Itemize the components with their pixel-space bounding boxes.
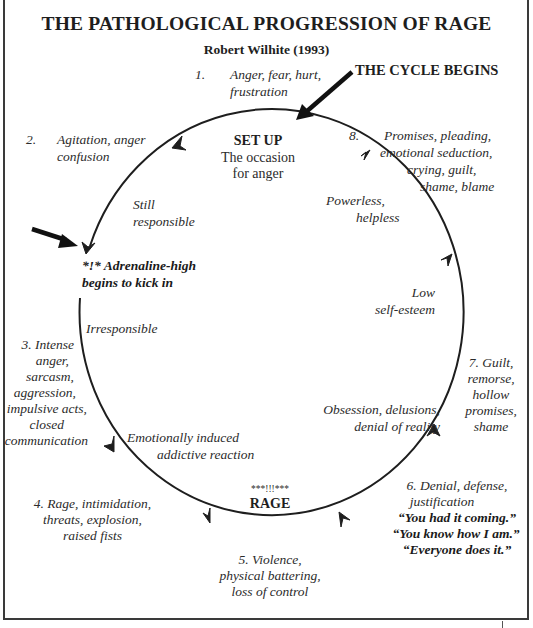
stage-8-number: 8. bbox=[349, 128, 359, 144]
irresponsible-label: Irresponsible bbox=[86, 321, 158, 337]
cycle-begins-label: THE CYCLE BEGINS bbox=[355, 62, 498, 79]
arrowhead-icon bbox=[104, 436, 114, 452]
low-self-esteem-line2: self-esteem bbox=[360, 302, 435, 318]
stage-6-quote2: “You know how I am.” bbox=[388, 526, 524, 542]
rage-stars: ***!!!*** bbox=[230, 484, 310, 495]
stage-3-line7: communication bbox=[4, 433, 88, 449]
stage-6-quote1: “You had it coming.” bbox=[392, 510, 522, 526]
diagram-subtitle: Robert Wilhite (1993) bbox=[0, 42, 533, 58]
emotionally-induced-line1: Emotionally induced bbox=[127, 430, 239, 446]
setup-title: SET UP bbox=[208, 133, 308, 150]
low-self-esteem-line1: Low bbox=[360, 285, 435, 301]
arrowhead-icon bbox=[441, 254, 452, 266]
obsession-line1: Obsession, delusions, bbox=[290, 402, 440, 418]
stage-6-line1: 6. Denial, defense, bbox=[392, 478, 522, 494]
stage-2-line2: confusion bbox=[57, 149, 110, 165]
arrowhead-icon bbox=[361, 150, 370, 160]
stage-2-number: 2. bbox=[26, 132, 36, 148]
adrenaline-label-line1: *!* Adrenaline-high bbox=[82, 258, 196, 274]
stage-5-line2: physical battering, bbox=[215, 568, 325, 584]
still-responsible-line1: Still bbox=[133, 197, 155, 213]
arrowhead-icon bbox=[82, 242, 95, 254]
stage-8-line4: shame, blame bbox=[420, 179, 494, 195]
stage-1-number: 1. bbox=[195, 67, 205, 83]
stage-3-line5: impulsive acts, bbox=[4, 401, 87, 417]
stage-7-line3: hollow bbox=[461, 387, 521, 403]
stage-3-line6: closed bbox=[4, 417, 64, 433]
setup-line1: The occasion bbox=[198, 150, 318, 167]
stage-4-line1: 4. Rage, intimidation, bbox=[30, 496, 155, 512]
adrenaline-label-line2: begins to kick in bbox=[82, 275, 173, 291]
stage-7-line2: remorse, bbox=[461, 371, 521, 387]
stage-8-line3: crying, guilt, bbox=[407, 162, 476, 178]
arrowhead-icon bbox=[203, 508, 210, 523]
powerless-line1: Powerless, bbox=[326, 193, 385, 209]
stage-5-line3: loss of control bbox=[215, 584, 325, 600]
stage-5-line1: 5. Violence, bbox=[215, 552, 325, 568]
diagram-title: THE PATHOLOGICAL PROGRESSION OF RAGE bbox=[0, 12, 533, 35]
obsession-line2: denial of reality bbox=[290, 419, 440, 435]
stage-1-line2: frustration bbox=[230, 84, 288, 100]
stage-3-line1: 3. Intense bbox=[4, 337, 74, 353]
setup-line2: for anger bbox=[198, 166, 318, 183]
stage-6-line2: justification bbox=[392, 494, 492, 510]
powerless-line2: helpless bbox=[356, 210, 400, 226]
still-responsible-line2: responsible bbox=[133, 214, 195, 230]
rage-title: RAGE bbox=[230, 496, 310, 513]
stage-4-line2: threats, explosion, bbox=[30, 512, 155, 528]
stage-8-line1: Promises, pleading, bbox=[384, 128, 491, 144]
stage-7-line1: 7. Guilt, bbox=[461, 355, 521, 371]
stage-4-line3: raised fists bbox=[30, 528, 155, 544]
arrowhead-icon bbox=[339, 512, 350, 527]
adrenaline-arrow-icon bbox=[32, 229, 78, 248]
stage-8-line2: emotional seduction, bbox=[380, 145, 492, 161]
stage-6-quote3: “Everyone does it.” bbox=[392, 542, 522, 558]
stage-1-line1: Anger, fear, hurt, bbox=[230, 67, 321, 83]
stage-3-line3: sarcasm, bbox=[4, 369, 74, 385]
stage-3-line2: anger, bbox=[4, 353, 69, 369]
stage-3-line4: aggression, bbox=[4, 385, 76, 401]
stage-7-line5: shame bbox=[461, 419, 521, 435]
stage-2-line1: Agitation, anger bbox=[57, 132, 146, 148]
emotionally-induced-line2: addictive reaction bbox=[157, 447, 254, 463]
stage-7-line4: promises, bbox=[461, 403, 521, 419]
